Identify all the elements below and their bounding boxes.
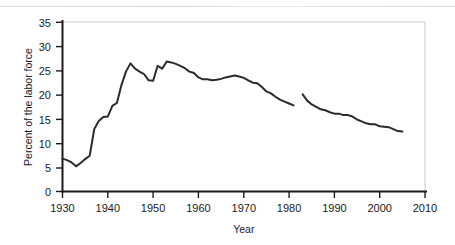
x-tick-label-1930: 1930 — [50, 202, 74, 214]
y-tick-label-0: 0 — [45, 186, 51, 198]
y-tick-label-5: 5 — [45, 162, 51, 174]
line-chart: 35 30 25 20 15 10 5 0 1930 1940 1950 196… — [0, 0, 455, 245]
y-tick-label-25: 25 — [39, 65, 51, 77]
x-tick-label-1950: 1950 — [141, 202, 165, 214]
y-tick-label-10: 10 — [39, 138, 51, 150]
x-axis-title: Year — [233, 223, 255, 235]
x-tick-label-1970: 1970 — [232, 202, 256, 214]
scan-artifact-line — [0, 6, 455, 7]
chart-figure: 35 30 25 20 15 10 5 0 1930 1940 1950 196… — [0, 0, 455, 245]
x-tick-label-1960: 1960 — [186, 202, 210, 214]
x-tick-label-1940: 1940 — [96, 202, 120, 214]
y-axis-ticks — [56, 22, 62, 191]
x-tick-label-1980: 1980 — [277, 202, 301, 214]
x-tick-label-2000: 2000 — [367, 202, 391, 214]
y-tick-label-30: 30 — [39, 41, 51, 53]
y-axis-title: Percent of the labor force — [22, 48, 34, 166]
y-tick-label-35: 35 — [39, 17, 51, 29]
x-tick-label-1990: 1990 — [322, 202, 346, 214]
x-tick-label-2010: 2010 — [413, 202, 437, 214]
y-tick-label-20: 20 — [39, 89, 51, 101]
y-tick-label-15: 15 — [39, 114, 51, 126]
x-axis-ticks — [63, 192, 426, 198]
plot-area-background — [62, 22, 425, 192]
